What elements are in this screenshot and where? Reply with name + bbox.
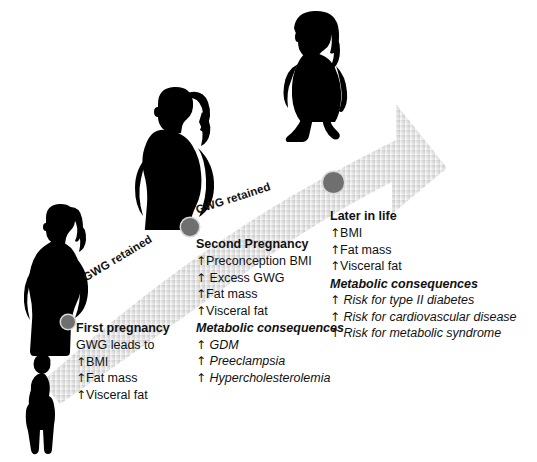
up-arrow-icon: ↑ — [196, 304, 206, 318]
up-arrow-icon: ↑ — [196, 271, 206, 285]
up-arrow-icon: ↑ — [330, 243, 340, 257]
stage-item: ↑Preconception BMI — [196, 253, 344, 270]
consequence-label: Risk for type II diabetes — [344, 293, 475, 307]
stage-item: ↑Visceral fat — [196, 303, 344, 320]
stage-item-label: Fat mass — [86, 371, 137, 385]
up-arrow-icon: ↑ — [76, 371, 86, 385]
stage-item: ↑BMI — [330, 225, 517, 242]
stage-item-label: Excess GWG — [210, 271, 285, 285]
up-arrow-icon: ↑ — [196, 371, 206, 385]
stage-title-first-pregnancy: First pregnancy — [76, 320, 170, 336]
stage-item: ↑Fat mass — [76, 370, 170, 387]
stage-node-first-pregnancy — [61, 315, 75, 329]
stage-item-label: Visceral fat — [86, 388, 148, 402]
consequences-title-second-pregnancy: Metabolic consequences — [196, 320, 344, 337]
up-arrow-icon: ↑ — [196, 338, 206, 352]
up-arrow-icon: ↑ — [196, 287, 206, 301]
consequences-title-later-in-life: Metabolic consequences — [330, 276, 517, 293]
up-arrow-icon: ↑ — [330, 226, 340, 240]
stage-block-later-in-life: Later in life ↑BMI ↑Fat mass ↑Visceral f… — [330, 208, 517, 342]
consequence-item: ↑ GDM — [196, 337, 344, 354]
stage-item-label: BMI — [340, 226, 362, 240]
consequence-item: ↑ Risk for metabolic syndrome — [330, 325, 517, 342]
stage-node-second-pregnancy — [181, 218, 199, 236]
up-arrow-icon: ↑ — [196, 354, 206, 368]
stage-title-later-in-life: Later in life — [330, 208, 517, 224]
figure-canvas: GWG retained GWG retained First pregnanc… — [0, 0, 537, 462]
stage-node-later-in-life — [323, 172, 344, 193]
consequence-item: ↑ Risk for cardiovascular disease — [330, 309, 517, 326]
stage-item: ↑Fat mass — [196, 286, 344, 303]
stage-item-label: Fat mass — [340, 243, 391, 257]
up-arrow-icon: ↑ — [330, 293, 340, 307]
up-arrow-icon: ↑ — [196, 254, 206, 268]
consequence-item: ↑ Hypercholesterolemia — [196, 370, 344, 387]
up-arrow-icon: ↑ — [330, 310, 340, 324]
stage-item-label: Preconception BMI — [206, 254, 312, 268]
stage-item: ↑Visceral fat — [76, 387, 170, 404]
stage-item: ↑BMI — [76, 354, 170, 371]
stage-block-second-pregnancy: Second Pregnancy ↑Preconception BMI ↑ Ex… — [196, 236, 344, 386]
up-arrow-icon: ↑ — [330, 259, 340, 273]
consequence-label: Preeclampsia — [210, 354, 286, 368]
stage-title-second-pregnancy: Second Pregnancy — [196, 236, 344, 252]
up-arrow-icon: ↑ — [76, 355, 86, 369]
consequence-item: ↑ Risk for type II diabetes — [330, 292, 517, 309]
stage-item: ↑ Excess GWG — [196, 270, 344, 287]
consequence-label: GDM — [210, 338, 239, 352]
later-in-life-woman-silhouette — [264, 8, 372, 144]
stage-item-label: Visceral fat — [340, 259, 402, 273]
consequence-label: Risk for metabolic syndrome — [344, 326, 502, 340]
stage-item-label: Visceral fat — [206, 304, 268, 318]
stage-lead-first-pregnancy: GWG leads to — [76, 337, 170, 354]
consequence-item: ↑ Preeclampsia — [196, 353, 344, 370]
consequence-label: Risk for cardiovascular disease — [344, 310, 517, 324]
pre-pregnancy-woman-silhouette — [8, 352, 74, 456]
up-arrow-icon: ↑ — [330, 326, 340, 340]
stage-item-label: BMI — [86, 355, 108, 369]
up-arrow-icon: ↑ — [76, 388, 86, 402]
stage-item: ↑Fat mass — [330, 242, 517, 259]
stage-block-first-pregnancy: First pregnancy GWG leads to ↑BMI ↑Fat m… — [76, 320, 170, 403]
stage-item: ↑Visceral fat — [330, 258, 517, 275]
stage-item-label: Fat mass — [206, 287, 257, 301]
consequence-label: Hypercholesterolemia — [210, 371, 331, 385]
